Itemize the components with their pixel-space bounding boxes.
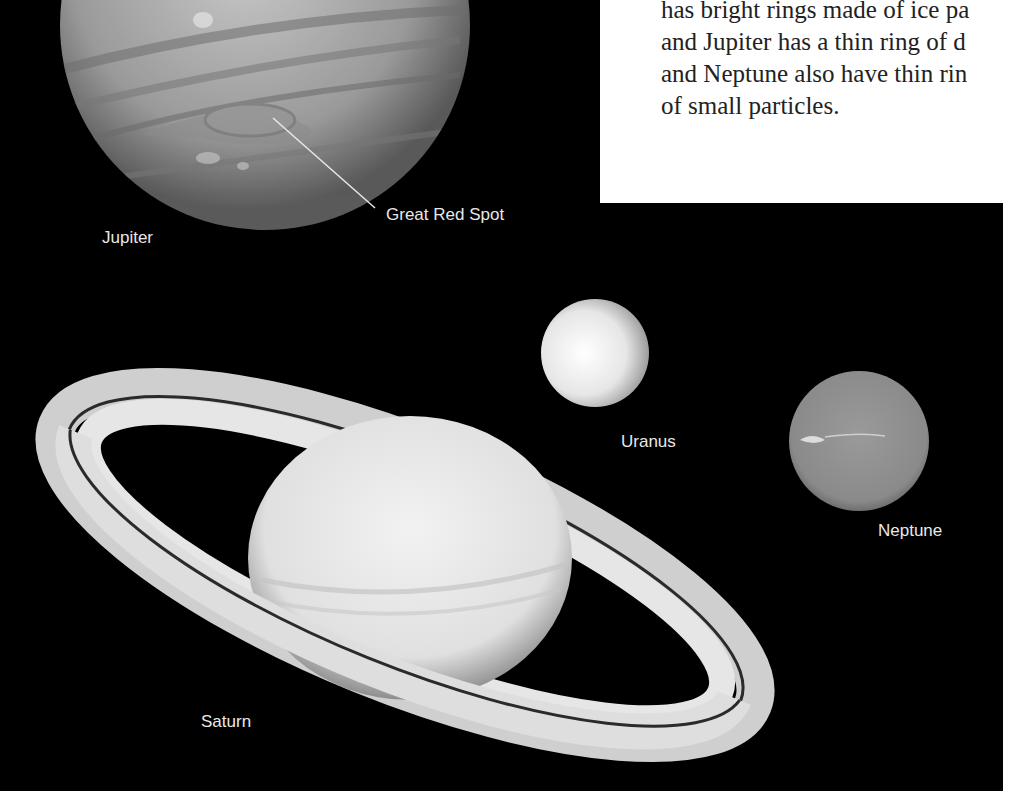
neptune-planet [789, 371, 929, 511]
caption-line-1: has bright rings made of ice pa [661, 0, 1009, 26]
saturn-label: Saturn [201, 712, 251, 732]
neptune-label: Neptune [878, 521, 942, 541]
jupiter-label: Jupiter [102, 228, 153, 248]
great-red-spot-label: Great Red Spot [386, 205, 504, 225]
caption-textbox: has bright rings made of ice pa and Jupi… [600, 0, 1009, 203]
caption-line-2: and Jupiter has a thin ring of d [661, 26, 1009, 58]
saturn-planet [13, 315, 797, 791]
caption-line-4: of small particles. [661, 90, 1009, 122]
caption-line-3: and Neptune also have thin rin [661, 58, 1009, 90]
uranus-planet [541, 299, 649, 407]
jupiter-planet [60, 0, 470, 230]
uranus-label: Uranus [621, 432, 676, 452]
